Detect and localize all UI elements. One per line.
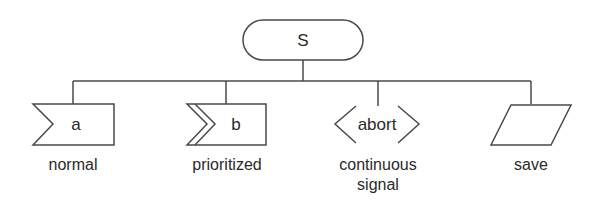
node-label-b: b xyxy=(231,115,240,134)
left-angle-bracket xyxy=(335,106,356,143)
child-node-continuous-signal: abort continuous signal xyxy=(335,106,419,193)
node-label-abort: abort xyxy=(358,115,397,134)
child-node-save: save xyxy=(491,105,571,173)
connectors xyxy=(73,60,531,106)
caption-save: save xyxy=(514,156,548,173)
root-node: S xyxy=(243,20,363,60)
caption-prioritized: prioritized xyxy=(192,156,261,173)
child-node-prioritized: b prioritized xyxy=(187,104,266,173)
child-node-normal: a normal xyxy=(33,104,114,173)
double-notched-flag-shape xyxy=(187,104,266,145)
root-label: S xyxy=(297,31,308,50)
caption-normal: normal xyxy=(49,156,98,173)
right-angle-bracket xyxy=(398,106,419,143)
node-label-a: a xyxy=(71,115,81,134)
caption-continuous: continuous xyxy=(339,156,416,173)
parallelogram-shape xyxy=(491,105,571,145)
caption-signal: signal xyxy=(357,176,399,193)
diagram-canvas: S a normal b prioritized abort continuou… xyxy=(0,0,599,215)
